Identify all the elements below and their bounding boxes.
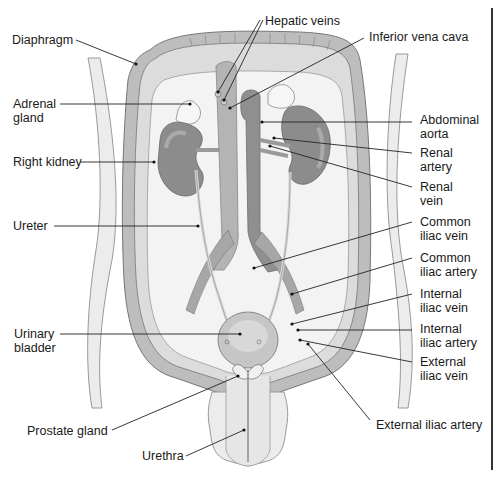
label-prostate-gland: Prostate gland (27, 424, 108, 438)
label-abdominal-aorta-line1: Abdominal (420, 113, 479, 127)
label-internal-iliac-artery-line1: Internal (420, 322, 462, 336)
label-common-iliac-artery-line2: iliac artery (420, 265, 477, 279)
label-external-iliac-artery: External iliac artery (376, 418, 482, 432)
label-external-iliac-vein-line2: iliac vein (420, 369, 468, 383)
label-adrenal-gland-line2: gland (13, 111, 44, 125)
label-common-iliac-vein-line1: Common (420, 215, 471, 229)
label-urethra: Urethra (142, 449, 184, 463)
label-adrenal-gland-line1: Adrenal (13, 97, 56, 111)
label-renal-vein-line1: Renal (420, 180, 453, 194)
label-right-kidney: Right kidney (13, 155, 82, 169)
label-common-iliac-artery-line1: Common (420, 251, 471, 265)
label-urinary-bladder-line1: Urinary (14, 327, 54, 341)
label-hepatic-veins: Hepatic veins (265, 14, 340, 28)
frame-border (491, 8, 493, 470)
label-inferior-vena-cava: Inferior vena cava (369, 30, 468, 44)
label-common-iliac-vein-line2: iliac vein (420, 229, 468, 243)
label-diaphragm: Diaphragm (12, 33, 73, 47)
label-abdominal-aorta-line2: aorta (420, 127, 449, 141)
label-ureter: Ureter (13, 219, 48, 233)
label-renal-vein-line2: vein (420, 194, 443, 208)
label-urinary-bladder-line2: bladder (14, 341, 56, 355)
label-internal-iliac-vein-line2: iliac vein (420, 301, 468, 315)
adrenal-gland-left (268, 85, 295, 109)
label-renal-artery-line1: Renal (420, 146, 453, 160)
label-renal-artery-line2: artery (420, 160, 452, 174)
label-internal-iliac-artery-line2: iliac artery (420, 336, 477, 350)
label-internal-iliac-vein-line1: Internal (420, 287, 462, 301)
label-external-iliac-vein-line1: External (420, 355, 466, 369)
